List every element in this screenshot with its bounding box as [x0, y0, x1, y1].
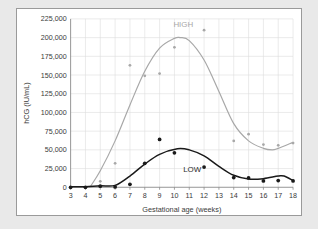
x-tick-label: 11 [186, 192, 193, 200]
x-tick-label: 14 [230, 192, 238, 200]
data-point-low [262, 179, 266, 183]
x-tick-label: 15 [245, 192, 253, 200]
data-point-low [232, 176, 236, 180]
x-tick-label: 16 [259, 192, 267, 200]
y-tick-label: 25,000 [45, 165, 67, 173]
x-tick-label: 8 [143, 192, 147, 200]
y-tick-label: 200,000 [41, 34, 67, 42]
trend-line-low [71, 148, 293, 186]
series-annotations: HIGHLOW [173, 20, 201, 173]
chart-panel: 025,00050,00075,000100,000125,000150,000… [16, 8, 302, 216]
y-tick-label: 75,000 [45, 128, 67, 136]
data-point-low [202, 165, 206, 169]
y-tick-label: 0 [63, 184, 67, 192]
y-axis-tick-labels: 025,00050,00075,000100,000125,000150,000… [41, 15, 67, 191]
hcg-gestational-age-chart: 025,00050,00075,000100,000125,000150,000… [17, 9, 301, 215]
y-tick-label: 50,000 [45, 146, 67, 154]
series-annotation-high: HIGH [173, 20, 193, 29]
data-point-high [99, 180, 102, 183]
data-point-high [262, 143, 265, 146]
data-point-low [128, 182, 132, 186]
data-point-low [276, 179, 280, 183]
data-point-high [114, 162, 117, 165]
data-point-low [69, 185, 73, 189]
data-point-low [143, 161, 147, 165]
x-tick-label: 6 [113, 192, 117, 200]
data-point-low [158, 137, 162, 141]
x-tick-label: 7 [128, 192, 132, 200]
y-axis-title: hCG (IU/mL) [22, 82, 31, 123]
data-point-high [129, 64, 132, 67]
x-tick-label: 10 [170, 192, 178, 200]
data-point-high [277, 144, 280, 147]
x-tick-label: 13 [215, 192, 223, 200]
y-tick-label: 125,000 [41, 90, 67, 98]
y-tick-label: 225,000 [41, 15, 67, 23]
data-point-high [292, 142, 295, 145]
y-tick-label: 175,000 [41, 53, 67, 61]
data-point-high [143, 74, 146, 77]
series-annotation-low: LOW [183, 165, 202, 174]
data-point-high [247, 133, 250, 136]
chart-page: 025,00050,00075,000100,000125,000150,000… [0, 0, 318, 229]
x-tick-label: 3 [69, 192, 73, 200]
axis-lines [71, 19, 293, 187]
x-tick-label: 4 [83, 192, 87, 200]
data-point-high [232, 139, 235, 142]
data-point-high [203, 29, 206, 32]
data-point-low [113, 185, 117, 189]
data-point-low [247, 176, 251, 180]
x-tick-label: 17 [274, 192, 282, 200]
x-tick-label: 12 [200, 192, 208, 200]
x-tick-label: 18 [289, 192, 297, 200]
y-tick-label: 100,000 [41, 109, 67, 117]
data-point-low [291, 179, 295, 183]
grid-lines [71, 19, 293, 187]
x-axis-tick-labels: 3456789101112131415161718 [69, 187, 297, 200]
data-point-low [98, 184, 102, 188]
x-tick-label: 5 [98, 192, 102, 200]
data-point-high [158, 72, 161, 75]
x-axis-title: Gestational age (weeks) [142, 205, 221, 214]
y-tick-label: 150,000 [41, 72, 67, 80]
data-point-high [173, 46, 176, 49]
data-point-low [173, 151, 177, 155]
data-point-low [84, 185, 88, 189]
x-tick-label: 9 [158, 192, 162, 200]
